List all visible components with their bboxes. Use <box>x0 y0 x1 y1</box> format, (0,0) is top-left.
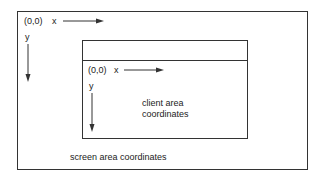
client-y-arrow-icon <box>90 124 95 132</box>
client-caption-line1: client area <box>142 98 184 108</box>
screen-y-arrow-icon <box>26 74 31 82</box>
client-caption-line2: coordinates <box>142 109 189 119</box>
screen-x-label: x <box>52 16 57 26</box>
client-y-label: y <box>89 81 94 91</box>
client-x-label: x <box>114 65 119 75</box>
screen-origin-label: (0,0) <box>24 16 43 26</box>
screen-x-arrow-icon <box>96 19 104 24</box>
axis-arrows <box>0 0 324 176</box>
screen-y-label: y <box>25 32 30 42</box>
client-origin-label: (0,0) <box>88 65 107 75</box>
client-x-arrow-icon <box>156 68 164 73</box>
screen-caption: screen area coordinates <box>70 152 167 162</box>
